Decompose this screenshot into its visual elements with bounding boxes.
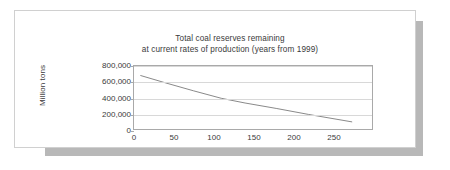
line-series-coal-reserves	[134, 66, 372, 129]
y-tick-mark	[131, 131, 134, 132]
chart-figure: Total coal reserves remaining at current…	[29, 21, 431, 159]
chart-title-line-2: at current rates of production (years fr…	[29, 45, 431, 56]
y-gridline	[134, 115, 372, 116]
y-gridline	[134, 66, 372, 67]
x-tick-label: 50	[170, 133, 179, 142]
y-tick-mark	[131, 115, 134, 116]
screenshot-root: Total coal reserves remaining at current…	[0, 0, 450, 170]
x-tick-label: 250	[327, 133, 340, 142]
x-tick-label: 150	[247, 133, 260, 142]
y-axis-title: Million tons	[38, 56, 47, 116]
chart-card: Total coal reserves remaining at current…	[14, 10, 416, 148]
chart-title: Total coal reserves remaining at current…	[29, 34, 431, 55]
y-tick-label: 200,000	[79, 110, 131, 119]
y-gridline	[134, 99, 372, 100]
x-tick-label: 0	[132, 133, 136, 142]
y-tick-mark	[131, 82, 134, 83]
x-tick-label: 100	[207, 133, 220, 142]
y-tick-mark	[131, 99, 134, 100]
chart-title-line-1: Total coal reserves remaining	[175, 34, 284, 43]
y-tick-mark	[131, 66, 134, 67]
plot-frame: 0200,000400,000600,000800,00005010015020…	[133, 65, 373, 130]
y-gridline	[134, 82, 372, 83]
y-tick-label: 600,000	[79, 77, 131, 86]
plot-area-wrapper: 0200,000400,000600,000800,00005010015020…	[78, 65, 373, 130]
x-tick-label: 200	[287, 133, 300, 142]
y-tick-label: 0	[79, 126, 131, 135]
y-tick-label: 400,000	[79, 94, 131, 103]
y-tick-label: 800,000	[79, 61, 131, 70]
